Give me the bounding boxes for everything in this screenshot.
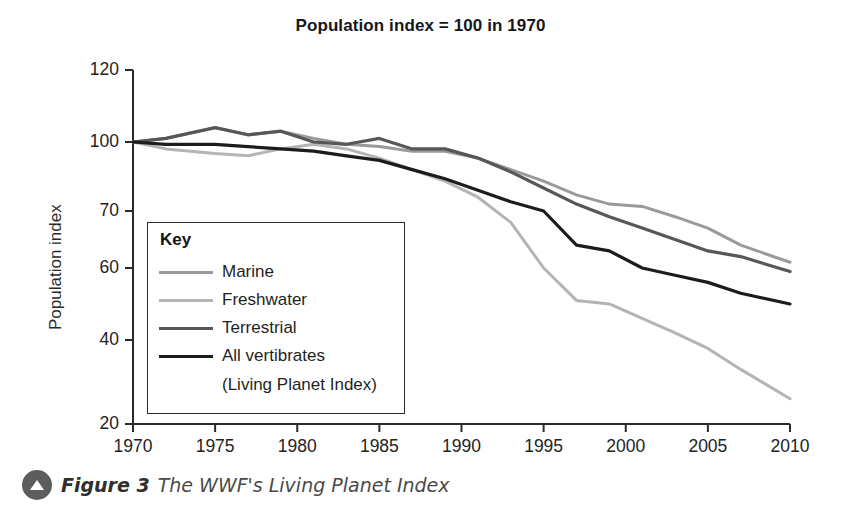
x-tick-label: 2010 — [760, 436, 820, 457]
legend-subtitle: (Living Planet Index) — [222, 375, 377, 395]
x-tick-label: 1985 — [349, 436, 409, 457]
legend-swatch-freshwater — [159, 299, 213, 302]
legend-title: Key — [160, 230, 191, 250]
legend-label: All vertibrates — [222, 346, 325, 366]
y-tick-label: 70 — [73, 200, 119, 221]
legend-label: Terrestrial — [222, 318, 297, 338]
legend-entry: Freshwater — [159, 287, 307, 313]
x-tick-label: 1970 — [103, 436, 163, 457]
x-tick-label: 1995 — [514, 436, 574, 457]
x-tick-label: 1975 — [185, 436, 245, 457]
x-tick-label: 1980 — [267, 436, 327, 457]
circle-up-triangle-icon — [22, 470, 52, 500]
y-tick-label: 40 — [73, 329, 119, 350]
caption-text: The WWF's Living Planet Index — [158, 474, 450, 496]
legend-box: Key MarineFreshwaterTerrestrialAll verti… — [147, 222, 405, 414]
legend-entry: Marine — [159, 259, 274, 285]
y-tick-label: 120 — [73, 59, 119, 80]
legend-label: Freshwater — [222, 290, 307, 310]
y-tick-label: 100 — [73, 131, 119, 152]
caption-figure-number: Figure 3 — [61, 474, 150, 496]
x-tick-label: 1990 — [432, 436, 492, 457]
legend-swatch-all-vertibrates — [159, 355, 213, 358]
legend-label: Marine — [222, 262, 274, 282]
legend-swatch-marine — [159, 271, 213, 274]
y-tick-label: 60 — [73, 257, 119, 278]
x-tick-label: 2000 — [596, 436, 656, 457]
x-tick-label: 2005 — [678, 436, 738, 457]
legend-entry: Terrestrial — [159, 315, 297, 341]
legend-swatch-terrestrial — [159, 327, 213, 330]
figure-container: Population index = 100 in 1970 Populatio… — [0, 0, 841, 517]
legend-entry: All vertibrates — [159, 343, 325, 369]
figure-caption: Figure 3 The WWF's Living Planet Index — [22, 470, 450, 500]
y-tick-label: 20 — [73, 413, 119, 434]
